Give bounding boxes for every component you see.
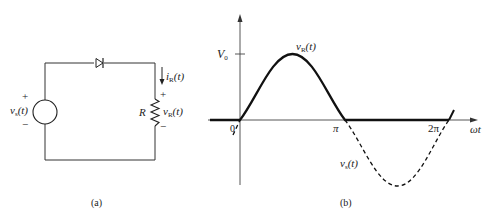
two-pi-label: 2π	[428, 122, 440, 134]
origin-label: 0	[230, 123, 235, 134]
voltage-minus: −	[160, 120, 166, 132]
current-label: iR(t)	[166, 70, 184, 84]
current-arrow-icon	[160, 67, 165, 85]
v0-label: V0	[217, 47, 228, 62]
source-label: vs(t)	[10, 104, 28, 118]
caption-b: (b)	[340, 197, 352, 209]
figure: + − vs(t) iR(t) R + − vR(t) (a)	[0, 0, 489, 221]
caption-a: (a)	[91, 197, 102, 209]
voltage-source-icon	[33, 100, 57, 124]
x-axis-label: ωt	[470, 123, 482, 135]
resistor-icon	[151, 99, 159, 126]
source-minus: −	[22, 118, 28, 130]
diode-icon	[96, 58, 103, 68]
source-plus: +	[22, 90, 28, 102]
voltage-plus: +	[160, 88, 166, 100]
vr-label: vR(t)	[296, 40, 316, 54]
pi-label: π	[333, 122, 339, 134]
vs-waveform-post	[449, 110, 454, 120]
y-axis-arrow-icon	[238, 14, 243, 22]
resistor-label: R	[138, 106, 146, 118]
x-axis-arrow-icon	[470, 118, 478, 123]
voltage-label: vR(t)	[163, 105, 183, 119]
vr-waveform	[210, 54, 449, 120]
vs-label: vs(t)	[340, 157, 358, 171]
